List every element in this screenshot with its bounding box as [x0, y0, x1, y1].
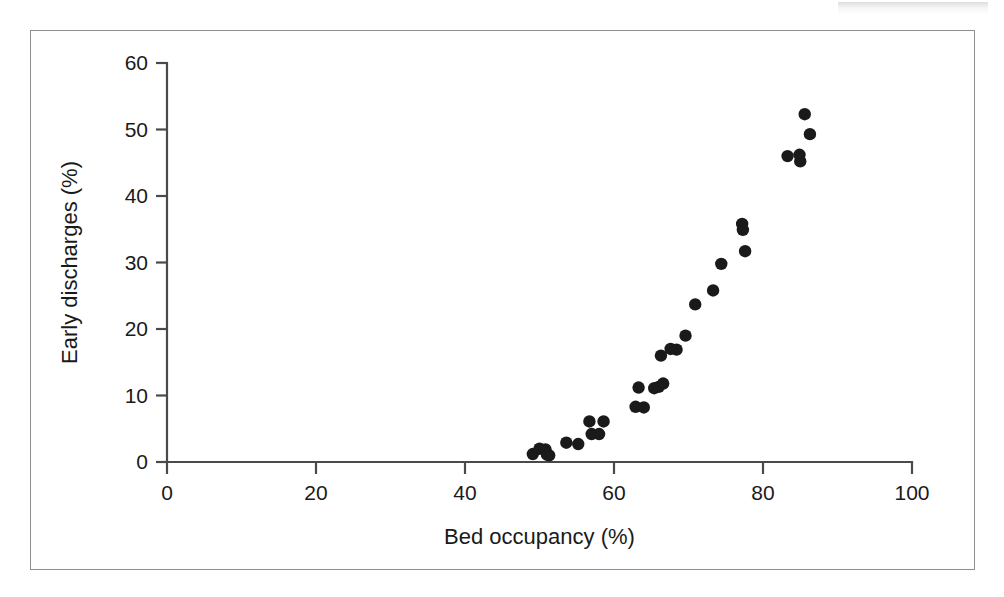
y-axis-tick-label: 0: [136, 450, 148, 473]
scatter-plot: 0102030405060 020406080100 Early dischar…: [31, 31, 974, 569]
scatter-point: [715, 258, 727, 270]
y-axis-tick-label: 40: [125, 184, 148, 207]
scatter-point: [739, 245, 751, 257]
scatter-point: [572, 438, 584, 450]
scatter-point: [560, 437, 572, 449]
x-axis-tick-label: 60: [602, 481, 625, 504]
scatter-point: [597, 415, 609, 427]
scan-edge-artifact: [838, 2, 988, 14]
y-axis-tick-label: 50: [125, 118, 148, 141]
y-axis-tick-label: 20: [125, 317, 148, 340]
scatter-point: [583, 415, 595, 427]
scatter-point: [638, 401, 650, 413]
scatter-point: [799, 108, 811, 120]
x-axis-tick-label: 80: [751, 481, 774, 504]
y-axis-title: Early discharges (%): [57, 161, 82, 364]
data-points-layer: [527, 108, 817, 462]
scatter-point: [632, 381, 644, 393]
scatter-point: [679, 329, 691, 341]
y-axis: 0102030405060: [125, 51, 167, 473]
x-axis-tick-label: 20: [304, 481, 327, 504]
scatter-point: [707, 284, 719, 296]
scatter-point: [657, 377, 669, 389]
scatter-point: [781, 150, 793, 162]
x-axis-tick-label: 100: [894, 481, 929, 504]
scatter-point: [794, 155, 806, 167]
scatter-point: [670, 343, 682, 355]
x-axis-tick-label: 40: [453, 481, 476, 504]
x-axis: 020406080100: [161, 462, 929, 504]
y-axis-tick-label: 10: [125, 384, 148, 407]
x-axis-title: Bed occupancy (%): [444, 524, 635, 549]
figure-root: 0102030405060 020406080100 Early dischar…: [0, 0, 1004, 597]
y-axis-tick-label: 60: [125, 51, 148, 74]
y-axis-tick-label: 30: [125, 251, 148, 274]
scatter-point: [593, 428, 605, 440]
scatter-point: [543, 449, 555, 461]
x-axis-tick-label: 0: [161, 481, 173, 504]
scatter-point: [689, 298, 701, 310]
scatter-point: [804, 128, 816, 140]
scatter-point: [737, 224, 749, 236]
figure-frame-border: 0102030405060 020406080100 Early dischar…: [30, 30, 975, 570]
